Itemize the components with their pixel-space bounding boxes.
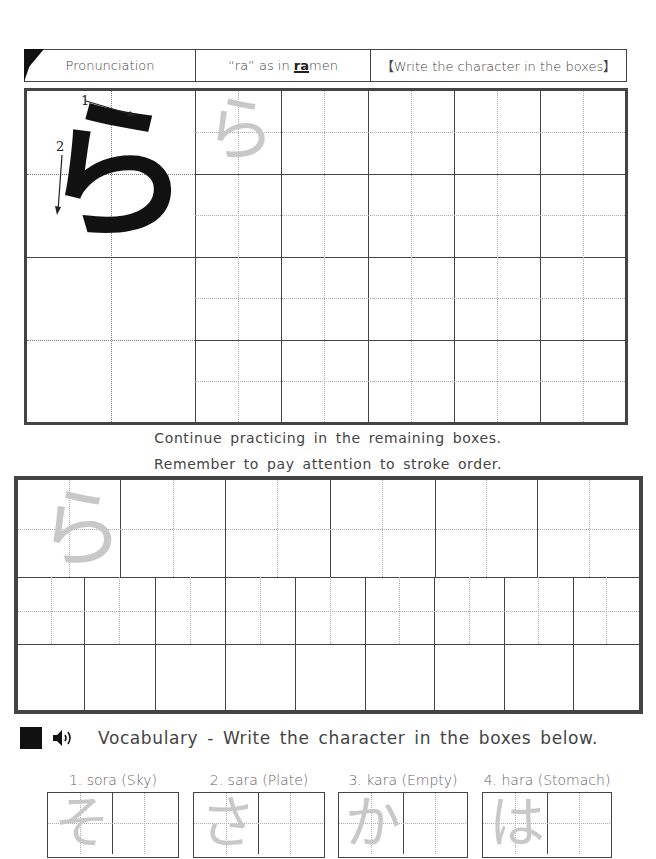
guide-line: [290, 793, 291, 854]
vocab-word-3: 3. kara (Empty) か: [338, 772, 468, 858]
trace-character: ら: [205, 95, 275, 165]
vocab-word-1: 1. sora (Sky) そ: [47, 772, 179, 858]
vocab-label: 2. sara (Plate): [193, 772, 325, 788]
grid-line: [365, 577, 366, 714]
pronunciation-label-cell: Pronunciation: [25, 50, 196, 81]
grid-line: [195, 340, 625, 341]
trace-character: は: [489, 795, 545, 851]
guide-line: [195, 215, 625, 216]
trace-character: さ: [200, 795, 256, 851]
stroke-arrow-1-icon: [83, 97, 139, 121]
pronunciation-header: Pronunciation “ra” as in ramen 【Write th…: [24, 49, 627, 82]
grid-line: [540, 91, 541, 422]
sound-cell: “ra” as in ramen: [196, 50, 371, 81]
grid-line: [504, 577, 505, 714]
guide-line: [195, 298, 625, 299]
sound-highlight: ra: [294, 58, 309, 73]
vocab-writing-box: そ: [47, 792, 179, 858]
guide-line: [260, 577, 261, 644]
grid-line: [281, 91, 282, 422]
grid-line: [195, 174, 625, 175]
trace-character: か: [345, 795, 401, 851]
practice-instruction-1: Continue practicing in the remaining box…: [0, 430, 656, 446]
secondary-practice-grid: ら: [14, 476, 643, 714]
guide-line: [486, 480, 487, 577]
vocab-label: 3. kara (Empty): [338, 772, 468, 788]
header-instruction: 【Write the character in the boxes】: [381, 56, 617, 75]
vocab-writing-box: は: [482, 792, 612, 858]
grid-line: [84, 577, 85, 714]
guide-line: [538, 577, 539, 644]
grid-line: [225, 577, 226, 714]
main-practice-grid: ら 1 2 ら: [24, 88, 628, 425]
guide-line: [606, 577, 607, 644]
stroke-number-2: 2: [56, 139, 64, 154]
guide-line: [324, 91, 325, 422]
pronunciation-label: Pronunciation: [66, 58, 155, 73]
guide-line: [119, 577, 120, 644]
stroke-arrow-2-icon: [53, 153, 67, 217]
guide-line: [411, 91, 412, 422]
vocab-word-4: 4. hara (Stomach) は: [482, 772, 612, 858]
grid-line: [18, 644, 639, 645]
guide-line: [382, 480, 383, 577]
guide-line: [399, 577, 400, 644]
guide-line: [173, 480, 174, 577]
guide-line: [18, 611, 639, 612]
vocabulary-title-row: Vocabulary - Write the character in the …: [20, 727, 598, 749]
grid-line: [155, 577, 156, 714]
black-square-icon: [20, 727, 42, 749]
guide-line: [277, 480, 278, 577]
vocab-writing-box: か: [338, 792, 468, 858]
sound-prefix: “ra” as in: [228, 58, 294, 73]
guide-line: [51, 577, 52, 644]
guide-line: [27, 340, 195, 341]
guide-line: [190, 577, 191, 644]
vocab-word-2: 2. sara (Plate) さ: [193, 772, 325, 858]
vocabulary-title: Vocabulary - Write the character in the …: [98, 728, 598, 748]
guide-line: [589, 480, 590, 577]
trace-character: そ: [54, 795, 110, 851]
vocab-label: 1. sora (Sky): [47, 772, 179, 788]
speaker-icon[interactable]: [52, 729, 74, 747]
grid-line: [573, 577, 574, 714]
guide-line: [435, 793, 436, 854]
vocab-label: 4. hara (Stomach): [482, 772, 612, 788]
practice-instruction-2: Remember to pay attention to stroke orde…: [0, 456, 656, 472]
grid-line: [434, 577, 435, 714]
vocab-writing-box: さ: [193, 792, 325, 858]
guide-line: [583, 91, 584, 422]
guide-line: [579, 793, 580, 854]
sound-suffix: men: [309, 58, 338, 73]
guide-line: [497, 91, 498, 422]
guide-line: [469, 577, 470, 644]
trace-character: ら: [38, 486, 124, 572]
grid-line: [454, 91, 455, 422]
guide-line: [195, 381, 625, 382]
instruction-cell: 【Write the character in the boxes】: [371, 50, 626, 81]
grid-line: [368, 91, 369, 422]
guide-line: [144, 793, 145, 854]
guide-line: [330, 577, 331, 644]
grid-line: [295, 577, 296, 714]
